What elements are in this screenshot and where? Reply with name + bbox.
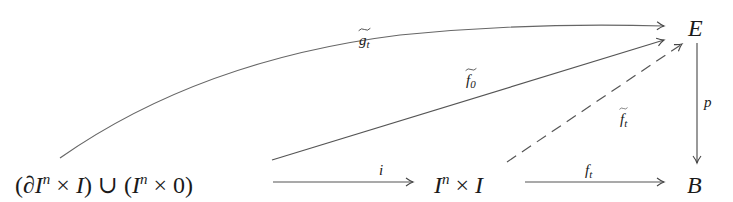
tilde: f0 xyxy=(466,73,476,89)
times: × xyxy=(50,172,76,198)
times-zero: × 0) xyxy=(148,172,194,198)
node-cube: In × I xyxy=(434,173,483,200)
tilde: gt xyxy=(359,33,370,49)
arrow-f-tilde-0 xyxy=(272,40,664,160)
exp: n xyxy=(140,171,148,187)
I: I xyxy=(434,172,442,198)
label-i: i xyxy=(379,163,383,178)
sub: t xyxy=(624,117,627,129)
I: I xyxy=(76,172,84,198)
node-source: (∂In × I) ∪ (In × 0) xyxy=(15,173,193,200)
union: ∪ xyxy=(98,172,124,198)
tilde: ft xyxy=(620,112,627,128)
I: I xyxy=(132,172,140,198)
times: × xyxy=(450,172,476,198)
label-f-tilde-t: ft xyxy=(620,112,627,128)
label-g-tilde-t: gt xyxy=(359,33,370,49)
label-f-t: ft xyxy=(585,163,592,179)
partial: ∂ xyxy=(23,172,35,198)
commutative-diagram: (∂In × I) ∪ (In × 0) In × I E B i ft p g… xyxy=(0,0,733,202)
sub: t xyxy=(367,38,370,50)
label-p: p xyxy=(704,95,712,110)
g: g xyxy=(359,32,367,48)
paren: ( xyxy=(124,172,132,198)
node-B: B xyxy=(687,173,702,197)
label-f-tilde-0: f0 xyxy=(466,73,476,89)
I: I xyxy=(475,172,483,198)
paren: ( xyxy=(15,172,23,198)
exp: n xyxy=(43,171,51,187)
sub: t xyxy=(589,168,592,180)
exp: n xyxy=(442,171,450,187)
paren: ) xyxy=(84,172,98,198)
I: I xyxy=(35,172,43,198)
sub: 0 xyxy=(470,78,476,90)
node-E: E xyxy=(688,16,703,40)
